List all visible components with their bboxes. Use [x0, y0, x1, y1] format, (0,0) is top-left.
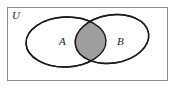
- venn-diagram-canvas: U A B: [0, 0, 176, 89]
- venn-diagram-figure: U A B: [0, 0, 176, 89]
- universe-label: U: [12, 9, 21, 21]
- set-b-label: B: [117, 35, 124, 47]
- set-a-label: A: [58, 35, 66, 47]
